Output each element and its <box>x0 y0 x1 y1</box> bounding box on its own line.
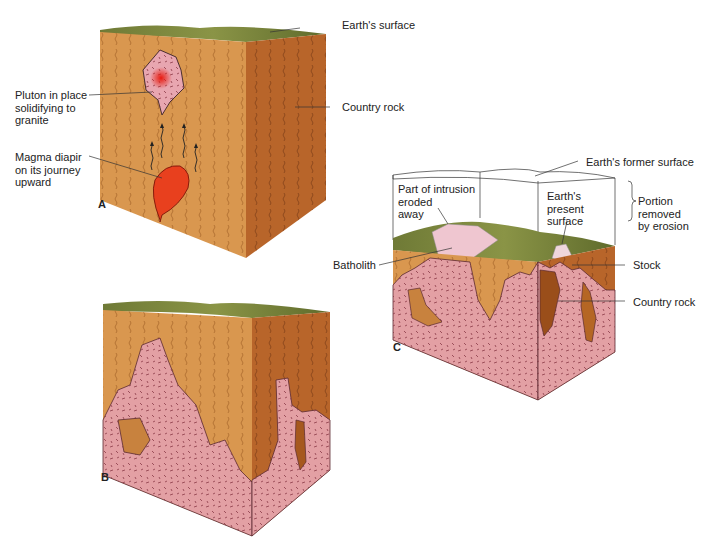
panel-letter-b: B <box>101 471 109 483</box>
label-country-rock-a: Country rock <box>342 101 404 114</box>
diagram-stage: Earth's surface Country rock Pluton in p… <box>0 0 714 556</box>
label-stock: Stock <box>633 259 661 272</box>
panel-letter-c: C <box>393 341 401 353</box>
label-pluton: Pluton in place solidifying to granite <box>15 89 87 127</box>
label-eroded-intrusion: Part of intrusion eroded away <box>398 183 475 221</box>
label-present-surface: Earth's present surface <box>547 190 584 228</box>
label-country-rock-c: Country rock <box>633 296 695 309</box>
panel-letter-a: A <box>98 198 106 210</box>
label-magma-diapir: Magma diapir on its journey upward <box>15 151 82 189</box>
panel-b-block <box>103 301 330 536</box>
label-former-surface: Earth's former surface <box>586 156 694 169</box>
label-batholith: Batholith <box>333 259 376 272</box>
label-earths-surface: Earth's surface <box>342 19 415 32</box>
label-portion-removed: Portion removed by erosion <box>638 195 689 233</box>
panel-a-block <box>100 25 326 258</box>
